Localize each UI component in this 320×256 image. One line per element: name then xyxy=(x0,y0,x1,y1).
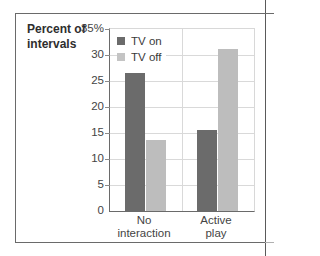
y-axis-title: Percent of intervals xyxy=(27,22,86,52)
bar-tv-on-active-play xyxy=(197,130,217,211)
tickmark-35 xyxy=(105,29,110,30)
legend-label-tv-on: TV on xyxy=(131,35,162,47)
legend-swatch-tv-on xyxy=(117,37,125,45)
y-tick-5: 5 xyxy=(98,178,104,190)
bar-tv-off-active-play xyxy=(218,49,238,211)
legend-swatch-tv-off xyxy=(117,53,125,61)
tickmark-30 xyxy=(105,55,110,56)
page-divider-line xyxy=(265,0,266,256)
x-label-line1: Active xyxy=(176,214,256,227)
legend-item-tv-on: TV on xyxy=(117,33,166,49)
y-tick-15: 15 xyxy=(91,126,104,138)
frame-bottom-extension xyxy=(265,242,274,243)
x-label-line1: No xyxy=(104,214,184,227)
tickmark-5 xyxy=(105,185,110,186)
tickmark-15 xyxy=(105,133,110,134)
legend: TV on TV off xyxy=(117,33,166,65)
y-tick-30: 30 xyxy=(91,48,104,60)
x-label-line2: interaction xyxy=(104,227,184,240)
frame-top-extension xyxy=(265,13,274,14)
y-tick-10: 10 xyxy=(91,152,104,164)
y-tick-20: 20 xyxy=(91,100,104,112)
y-axis-title-line1: Percent of xyxy=(27,22,86,37)
x-label-no-interaction: No interaction xyxy=(104,214,184,240)
x-label-line2: play xyxy=(176,227,256,240)
y-tick-35: 35% xyxy=(81,22,104,34)
category-divider xyxy=(182,29,183,211)
y-axis-title-line2: intervals xyxy=(27,37,86,52)
legend-label-tv-off: TV off xyxy=(131,51,161,63)
x-label-active-play: Active play xyxy=(176,214,256,240)
legend-item-tv-off: TV off xyxy=(117,49,166,65)
y-tick-25: 25 xyxy=(91,74,104,86)
bar-tv-on-no-interaction xyxy=(125,73,145,211)
bar-tv-off-no-interaction xyxy=(146,140,166,211)
tickmark-10 xyxy=(105,159,110,160)
tickmark-25 xyxy=(105,81,110,82)
tickmark-20 xyxy=(105,107,110,108)
